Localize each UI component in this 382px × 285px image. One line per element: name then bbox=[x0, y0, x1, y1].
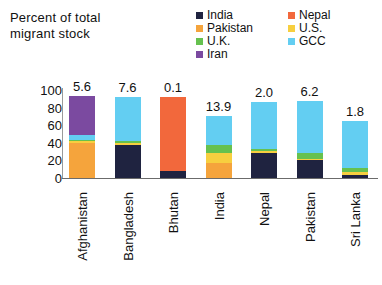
bar-value-label: 1.8 bbox=[335, 105, 375, 118]
bar-group: 5.67.60.113.92.06.21.8 bbox=[62, 78, 382, 190]
bar-column-afghanistan[interactable] bbox=[62, 90, 102, 178]
x-axis-label-bhutan: Bhutan bbox=[167, 192, 180, 233]
y-axis-tick-20: 20 bbox=[48, 154, 62, 167]
bar-stack bbox=[69, 96, 95, 178]
x-axis-label-nepal: Nepal bbox=[258, 192, 271, 226]
legend-item-iran[interactable]: Iran bbox=[196, 48, 284, 61]
bar-segment-india bbox=[160, 171, 186, 178]
axis-title-line-1: Percent of total bbox=[10, 10, 180, 26]
plot-area: 100806040200 5.67.60.113.92.06.21.8 bbox=[0, 78, 382, 190]
bar-column-bangladesh[interactable] bbox=[108, 90, 148, 178]
legend-swatch-icon bbox=[288, 25, 295, 32]
legend-item-label: Iran bbox=[207, 48, 228, 61]
bar-segment-gcc bbox=[206, 116, 232, 145]
legend-swatch-icon bbox=[196, 51, 203, 58]
x-axis-label-slot: Nepal bbox=[244, 192, 284, 285]
bar-segment-india bbox=[297, 160, 323, 178]
legend-swatch-icon bbox=[288, 38, 295, 45]
bar-segment-gcc bbox=[115, 97, 141, 141]
y-axis-tick-100: 100 bbox=[40, 84, 62, 97]
bar-segment-india bbox=[251, 153, 277, 178]
bar-segment-iran bbox=[69, 96, 95, 135]
x-axis-label-afghanistan: Afghanistan bbox=[76, 192, 89, 261]
bar-segment-nepal bbox=[160, 97, 186, 171]
bar-value-label: 6.2 bbox=[290, 85, 330, 98]
bar-value-label: 5.6 bbox=[62, 80, 102, 93]
bar-column-bhutan[interactable] bbox=[153, 90, 193, 178]
y-axis-tick-0: 0 bbox=[55, 172, 62, 185]
bar-value-label: 7.6 bbox=[108, 81, 148, 94]
y-axis-tick-labels: 100806040200 bbox=[18, 90, 62, 178]
x-axis-label-bangladesh: Bangladesh bbox=[121, 192, 134, 261]
bar-segment-gcc bbox=[342, 121, 368, 169]
legend-swatch-icon bbox=[196, 38, 203, 45]
bar-segment-gcc bbox=[251, 102, 277, 149]
bar-stack bbox=[342, 121, 368, 178]
x-axis-label-slot: Afghanistan bbox=[62, 192, 102, 285]
x-axis-label-slot: Bangladesh bbox=[108, 192, 148, 285]
x-axis-label-slot: Bhutan bbox=[153, 192, 193, 285]
bar-segment-pakistan bbox=[69, 143, 95, 178]
x-axis-label-pakistan: Pakistan bbox=[303, 192, 316, 242]
axis-title: Percent of total migrant stock bbox=[10, 10, 180, 42]
x-axis-baseline bbox=[62, 178, 378, 179]
bar-segment-gcc bbox=[297, 101, 323, 152]
legend-swatch-icon bbox=[196, 12, 203, 19]
x-axis-label-india: India bbox=[212, 192, 225, 220]
bar-value-label: 13.9 bbox=[199, 100, 239, 113]
legend-item-label: GCC bbox=[299, 35, 326, 48]
bar-stack bbox=[297, 101, 323, 178]
bar-value-label: 2.0 bbox=[244, 86, 284, 99]
bar-stack bbox=[115, 97, 141, 178]
bar-stack bbox=[160, 97, 186, 178]
x-axis-label-slot: Pakistan bbox=[290, 192, 330, 285]
bar-segment-u-k- bbox=[206, 145, 232, 152]
x-axis-label-sri-lanka: Sri Lanka bbox=[349, 192, 362, 247]
legend-swatch-icon bbox=[196, 25, 203, 32]
legend-item-gcc[interactable]: GCC bbox=[288, 35, 376, 48]
x-axis-label-slot: Sri Lanka bbox=[335, 192, 375, 285]
chart-legend: IndiaNepalPakistanU.S.U.K.GCCIran bbox=[196, 9, 376, 61]
x-axis-category-labels: AfghanistanBangladeshBhutanIndiaNepalPak… bbox=[62, 192, 382, 285]
y-axis-tick-80: 80 bbox=[48, 101, 62, 114]
bar-segment-pakistan bbox=[206, 163, 232, 178]
y-axis-tick-60: 60 bbox=[48, 119, 62, 132]
x-axis-label-slot: India bbox=[199, 192, 239, 285]
axis-title-line-2: migrant stock bbox=[10, 26, 180, 42]
bar-segment-u-s- bbox=[206, 153, 232, 164]
bar-column-nepal[interactable] bbox=[244, 90, 284, 178]
stacked-bar-chart-figure: Percent of total migrant stock IndiaNepa… bbox=[0, 0, 382, 285]
bar-stack bbox=[251, 102, 277, 178]
legend-swatch-icon bbox=[288, 12, 295, 19]
bar-segment-india bbox=[115, 145, 141, 178]
bar-column-pakistan[interactable] bbox=[290, 90, 330, 178]
bar-stack bbox=[206, 116, 232, 178]
y-axis-tick-40: 40 bbox=[48, 136, 62, 149]
bar-value-label: 0.1 bbox=[153, 81, 193, 94]
